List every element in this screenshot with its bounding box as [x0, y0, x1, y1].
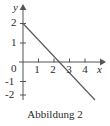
figure-abbildung-2: y x 2 1 0 -1 -2 1 2 3 4 Abbildung 2 — [0, 0, 110, 126]
x-axis-label: x — [97, 64, 102, 75]
y-tick-label-1: 1 — [11, 37, 17, 48]
coordinate-plot: y x 2 1 0 -1 -2 1 2 3 4 — [0, 0, 110, 105]
x-tick-label-2: 2 — [48, 64, 58, 75]
figure-caption: Abbildung 2 — [0, 108, 110, 120]
y-tick-label-minus-2: -2 — [5, 89, 14, 100]
plot-canvas — [0, 0, 110, 105]
y-tick-label-minus-1: -1 — [5, 76, 14, 87]
y-axis-label: y — [13, 2, 18, 13]
y-tick-label-2: 2 — [11, 17, 17, 28]
y-axis — [20, 4, 27, 100]
x-tick-label-3: 3 — [64, 64, 74, 75]
x-tick-label-1: 1 — [32, 64, 42, 75]
origin-label: 0 — [11, 63, 17, 74]
x-tick-label-4: 4 — [80, 64, 90, 75]
y-axis-arrow — [20, 4, 27, 10]
